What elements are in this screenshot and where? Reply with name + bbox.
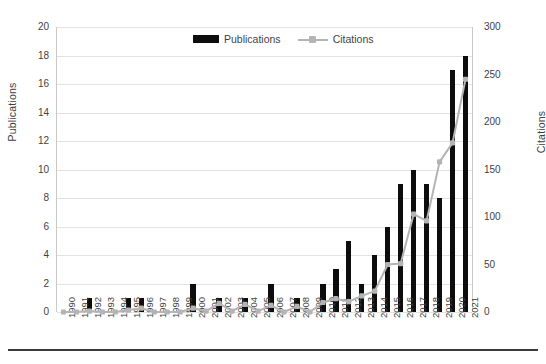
- publications-citations-chart: Publications Citations Publications Cita…: [0, 0, 546, 364]
- legend-label-publications: Publications: [224, 33, 281, 45]
- x-axis-tick-2000: 2000: [197, 297, 207, 318]
- x-axis-tick-2019: 2019: [444, 297, 454, 318]
- legend-label-citations: Citations: [333, 33, 374, 45]
- x-axis-tick-2001: 2001: [210, 297, 220, 318]
- y-axis-tick-left: 8: [11, 193, 49, 203]
- bar-2020: [450, 70, 455, 312]
- gridline: [57, 170, 472, 171]
- x-axis-tick-2010: 2010: [327, 297, 337, 318]
- y-axis-tick-right: 200: [484, 117, 524, 127]
- gridline: [57, 255, 472, 256]
- x-axis-tick-2021: 2021: [470, 297, 480, 318]
- x-axis-tick-2009: 2009: [314, 297, 324, 318]
- y-axis-tick-right: 100: [484, 212, 524, 222]
- x-axis-tick-2018: 2018: [431, 297, 441, 318]
- gridline: [57, 141, 472, 142]
- x-axis-tick-2006: 2006: [275, 297, 285, 318]
- x-axis-tick-2007: 2007: [288, 297, 298, 318]
- legend-item-publications[interactable]: Publications: [193, 33, 281, 45]
- x-axis-tick-1999: 1999: [184, 297, 194, 318]
- y-axis-tick-left: 20: [11, 22, 49, 32]
- bar-2016: [398, 184, 403, 312]
- x-axis-tick-2016: 2016: [405, 297, 415, 318]
- y-axis-tick-left: 16: [11, 79, 49, 89]
- y-axis-tick-left: 0: [11, 307, 49, 317]
- right-axis-spine: [472, 27, 473, 312]
- x-axis-tick-1996: 1996: [145, 297, 155, 318]
- gridline: [57, 27, 472, 28]
- x-axis-tick-1997: 1997: [158, 297, 168, 318]
- y-axis-tick-left: 4: [11, 250, 49, 260]
- x-axis-tick-2008: 2008: [301, 297, 311, 318]
- right-axis-title: Citations: [535, 22, 546, 132]
- y-axis-tick-left: 6: [11, 222, 49, 232]
- right-axis-title-text: Citations: [535, 111, 546, 154]
- y-axis-tick-left: 10: [11, 165, 49, 175]
- y-axis-tick-left: 2: [11, 279, 49, 289]
- bar-2017: [411, 170, 416, 313]
- x-axis-tick-2015: 2015: [392, 297, 402, 318]
- x-axis-tick-1993: 1993: [106, 297, 116, 318]
- x-axis-tick-2014: 2014: [379, 297, 389, 318]
- gridline: [57, 56, 472, 57]
- x-axis-tick-2004: 2004: [249, 297, 259, 318]
- bar-2021: [463, 56, 468, 313]
- x-axis-tick-2011: 2011: [340, 298, 350, 318]
- x-axis-tick-2017: 2017: [418, 297, 428, 318]
- gridline: [57, 198, 472, 199]
- x-axis-tick-2013: 2013: [366, 297, 376, 318]
- y-axis-tick-right: 50: [484, 260, 524, 270]
- x-axis-tick-2002: 2002: [223, 297, 233, 318]
- bar-2018: [424, 184, 429, 312]
- gridline: [57, 227, 472, 228]
- y-axis-tick-left: 18: [11, 51, 49, 61]
- footer-divider: [8, 349, 538, 351]
- bar-swatch-icon: [193, 35, 219, 43]
- y-axis-tick-right: 300: [484, 22, 524, 32]
- x-axis-tick-2020: 2020: [457, 297, 467, 318]
- x-axis-tick-1995: 1995: [132, 297, 142, 318]
- x-axis-tick-1990: 1990: [67, 297, 77, 318]
- gridline: [57, 113, 472, 114]
- line-swatch-icon: [298, 35, 328, 43]
- x-axis-tick-2005: 2005: [262, 297, 272, 318]
- x-axis-tick-2003: 2003: [236, 297, 246, 318]
- legend-item-citations[interactable]: Citations: [298, 33, 374, 45]
- x-axis-tick-1992: 1992: [93, 297, 103, 318]
- x-axis-tick-2012: 2012: [353, 297, 363, 318]
- x-axis-tick-1998: 1998: [171, 297, 181, 318]
- y-axis-tick-right: 250: [484, 70, 524, 80]
- chart-legend: Publications Citations: [193, 33, 373, 45]
- gridline: [57, 84, 472, 85]
- bar-2019: [437, 198, 442, 312]
- y-axis-tick-right: 150: [484, 165, 524, 175]
- x-axis-tick-1994: 1994: [119, 297, 129, 318]
- y-axis-tick-right: 0: [484, 307, 524, 317]
- left-axis-spine: [56, 27, 57, 312]
- y-axis-tick-left: 14: [11, 108, 49, 118]
- x-axis-tick-1991: 1991: [80, 297, 90, 318]
- citations-marker-2019: [437, 159, 442, 164]
- gridline: [57, 284, 472, 285]
- y-axis-tick-left: 12: [11, 136, 49, 146]
